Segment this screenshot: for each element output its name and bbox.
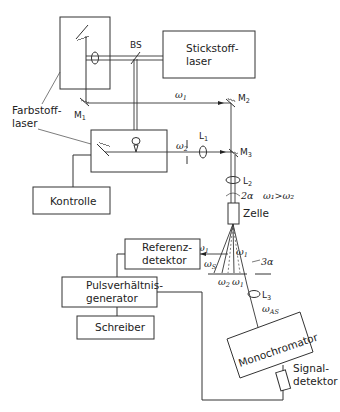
omegaS-label: ωS [204, 258, 217, 271]
mirror-m2-icon [226, 98, 235, 107]
arrow-icon [218, 101, 224, 105]
cell-label: Zelle [243, 207, 269, 219]
lens-l2-icon [226, 177, 240, 184]
dye-laser-label-1: Farbstoff- [12, 104, 62, 116]
arrow-icon [220, 150, 226, 154]
pointer-line-2 [38, 129, 91, 144]
control-label: Kontrolle [50, 195, 96, 207]
mirror-m1-icon [80, 98, 89, 106]
angle-3a-pointer [252, 260, 260, 262]
angle-2a-label: 2α [240, 190, 254, 201]
dye-laser-amplifier-box [91, 130, 167, 172]
recorder-label: Schreiber [95, 321, 146, 333]
nitrogen-laser-label-2: laser [186, 55, 212, 67]
beam-splitter-icon [131, 52, 140, 64]
bs-label: BS [130, 40, 142, 50]
signal-detector-box [276, 370, 291, 391]
condition-label: ω₁>ω₂ [263, 190, 294, 201]
raman-setup-diagram: BS Stickstoff- laser M1 ω1 M2 Farbstoff-… [0, 0, 340, 412]
angle-3a-label: 3α [261, 256, 274, 267]
pulse-generator-label-1: Pulsverhältnis- [86, 279, 163, 291]
mirror-m3-icon [229, 149, 238, 157]
pulse-generator-label-2: generator [86, 292, 139, 304]
angle-arc-icon [226, 193, 240, 196]
signal-detector-label-1: Signal- [293, 362, 329, 374]
l3-label: L3 [262, 290, 271, 302]
l2-label: L2 [243, 176, 252, 188]
cell-box [228, 203, 239, 224]
reference-detector-label-1: Referenz- [142, 241, 192, 253]
omega2-low-label: ω2 [218, 276, 230, 289]
omegaAS-label: ωAS [262, 303, 279, 316]
signal-detector-label-2: detektor [293, 375, 338, 387]
reference-detector-label-2: detektor [142, 254, 187, 266]
omega1-low-label: ω1 [232, 276, 244, 289]
l1-label: L1 [199, 131, 208, 143]
pointer-line-1 [42, 72, 60, 104]
m2-label: M2 [238, 93, 250, 105]
omega2-mid-label: ω2 [176, 140, 188, 153]
m1-label: M1 [74, 110, 86, 122]
nitrogen-laser-label-1: Stickstoff- [186, 42, 239, 54]
dye-laser-label-2: laser [12, 117, 38, 129]
omega1-top-label: ω1 [175, 89, 187, 102]
m3-label: M3 [240, 147, 252, 159]
